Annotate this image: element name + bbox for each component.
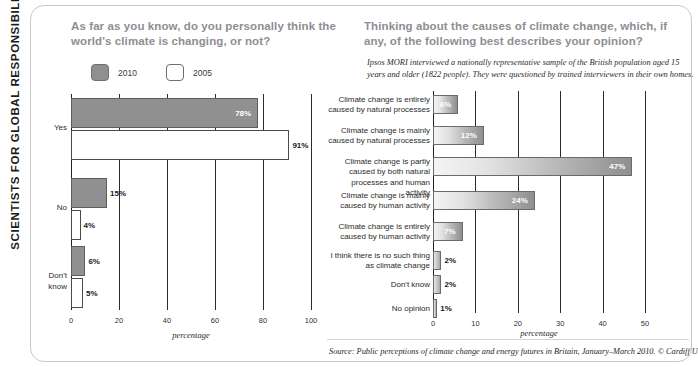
bar-value-label: 47% <box>609 162 625 171</box>
bar: 24% <box>433 191 535 210</box>
gridline-30 <box>560 91 561 313</box>
legend-swatch-2005 <box>166 64 184 81</box>
x-tick-label-80: 80 <box>259 316 267 325</box>
x-tick-label-60: 60 <box>211 316 219 325</box>
category-label: No opinion <box>327 304 430 315</box>
left-chart-title: As far as you know, do you personally th… <box>71 19 361 49</box>
methodology-note: Ipsos MORI interviewed a nationally repr… <box>367 57 697 80</box>
x-tick-label-40: 40 <box>598 319 606 328</box>
category-label: Yes <box>29 123 67 134</box>
bar-value-label: 4% <box>84 221 96 230</box>
bar-value-label: 15% <box>110 189 126 198</box>
bar: 91% <box>71 130 289 160</box>
right-x-axis-caption: percentage <box>520 328 557 338</box>
bar-value-label: 12% <box>461 131 477 140</box>
x-tick-label-20: 20 <box>514 319 522 328</box>
x-tick-label-30: 30 <box>556 319 564 328</box>
side-banner: SCIENTISTS FOR GLOBAL RESPONSIBILITY <box>0 0 26 367</box>
legend-item-2010: 2010 <box>91 64 137 81</box>
bar: 7% <box>433 222 463 241</box>
bar: 47% <box>433 157 632 176</box>
gridline-80 <box>263 94 264 310</box>
bar: 4% <box>71 210 81 240</box>
right-chart-title: Thinking about the causes of climate cha… <box>364 19 684 49</box>
gridline-40 <box>603 91 604 313</box>
category-label: Climate change is mainly caused by natur… <box>327 126 430 147</box>
gridline-100 <box>311 94 312 310</box>
bar: 6% <box>433 95 458 114</box>
category-label: Climate change is mainly caused by human… <box>327 191 430 212</box>
x-tick-label-50: 50 <box>641 319 649 328</box>
bar: 78% <box>71 98 258 128</box>
x-tick-label-20: 20 <box>115 316 123 325</box>
category-label: Don't know <box>29 271 67 292</box>
legend-label-2005: 2005 <box>193 68 212 78</box>
left-x-axis-caption: percentage <box>172 330 209 340</box>
bar-value-label: 78% <box>235 109 251 118</box>
category-label: Climate change is entirely caused by nat… <box>327 95 430 116</box>
left-chart-plot: 02040608010078%91%15%4%6%5% <box>71 94 311 310</box>
bar-value-label: 6% <box>88 257 100 266</box>
category-label: I think there is no such thing as climat… <box>327 251 430 272</box>
source-credit: Source: Public perceptions of climate ch… <box>329 347 689 356</box>
x-tick-label-0: 0 <box>431 319 435 328</box>
bar-value-label: 6% <box>440 100 452 109</box>
bar-value-label: 2% <box>444 280 456 289</box>
x-tick-label-40: 40 <box>163 316 171 325</box>
bar-value-label: 1% <box>440 304 452 313</box>
legend-item-2005: 2005 <box>166 64 212 81</box>
bar-value-label: 91% <box>292 141 308 150</box>
bar: 5% <box>71 278 83 308</box>
bar-value-label: 7% <box>444 227 456 236</box>
bar: 6% <box>71 246 85 276</box>
bar: 1% <box>433 299 437 318</box>
bar: 2% <box>433 251 441 270</box>
figure-root: SCIENTISTS FOR GLOBAL RESPONSIBILITY As … <box>0 0 698 367</box>
figure-panel: As far as you know, do you personally th… <box>30 5 692 362</box>
category-label: Don't know <box>327 280 430 291</box>
source-divider <box>327 339 689 340</box>
legend-swatch-2010 <box>91 64 109 81</box>
bar-value-label: 5% <box>86 289 98 298</box>
x-tick-label-10: 10 <box>471 319 479 328</box>
bar-value-label: 24% <box>512 196 528 205</box>
category-label: No <box>29 203 67 214</box>
organisation-name: SCIENTISTS FOR GLOBAL RESPONSIBILITY <box>9 0 21 251</box>
bar: 15% <box>71 178 107 208</box>
x-tick-label-100: 100 <box>305 316 318 325</box>
gridline-50 <box>645 91 646 313</box>
bar: 12% <box>433 126 484 145</box>
x-tick-label-0: 0 <box>69 316 73 325</box>
bar: 2% <box>433 275 441 294</box>
category-label: Climate change is entirely caused by hum… <box>327 222 430 243</box>
bar-value-label: 2% <box>444 256 456 265</box>
legend-label-2010: 2010 <box>118 68 137 78</box>
right-chart-plot: 010203040506%12%47%24%7%2%2%1% <box>433 91 645 313</box>
